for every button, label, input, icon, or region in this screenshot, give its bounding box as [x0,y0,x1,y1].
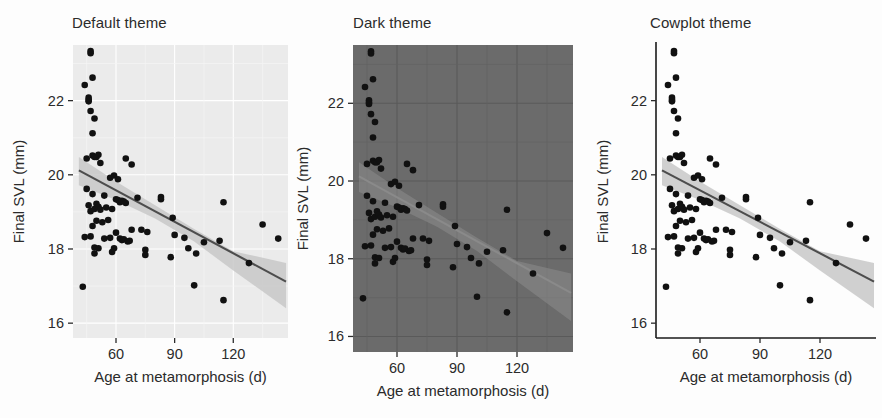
svg-text:22: 22 [48,93,64,109]
svg-text:18: 18 [48,241,64,257]
panel-cowplot-theme: Cowplot theme 161820226090120Age at meta… [588,0,882,418]
svg-text:60: 60 [108,346,124,362]
svg-text:Final SVL (mm): Final SVL (mm) [594,140,611,244]
svg-text:16: 16 [631,315,647,331]
svg-text:20: 20 [631,167,647,183]
svg-text:Age at metamorphosis (d): Age at metamorphosis (d) [680,368,853,385]
svg-text:90: 90 [449,360,465,376]
svg-text:Age at metamorphosis (d): Age at metamorphosis (d) [377,382,550,399]
svg-text:18: 18 [631,241,647,257]
svg-text:18: 18 [328,251,344,267]
svg-text:22: 22 [631,93,647,109]
svg-text:16: 16 [328,328,344,344]
svg-text:120: 120 [505,360,529,376]
plot-area-dark: 161820226090120Age at metamorphosis (d)F… [294,0,588,418]
svg-text:22: 22 [328,95,344,111]
panel-default-theme: Default theme 161820226090120Age at meta… [0,0,294,418]
svg-text:16: 16 [48,315,64,331]
svg-text:120: 120 [808,346,832,362]
svg-text:60: 60 [389,360,405,376]
panel-dark-theme: Dark theme 161820226090120Age at metamor… [294,0,588,418]
plot-area-cowplot: 161820226090120Age at metamorphosis (d)F… [588,0,882,418]
svg-text:Final SVL (mm): Final SVL (mm) [10,140,27,244]
svg-text:120: 120 [221,346,245,362]
svg-text:Age at metamorphosis (d): Age at metamorphosis (d) [94,368,267,385]
svg-text:Final SVL (mm): Final SVL (mm) [294,147,311,251]
plot-area-default: 161820226090120Age at metamorphosis (d)F… [0,0,294,418]
svg-text:20: 20 [328,173,344,189]
svg-text:20: 20 [48,167,64,183]
theme-comparison-figure: Default theme 161820226090120Age at meta… [0,0,882,418]
svg-text:90: 90 [752,346,768,362]
svg-text:90: 90 [167,346,183,362]
svg-text:60: 60 [692,346,708,362]
